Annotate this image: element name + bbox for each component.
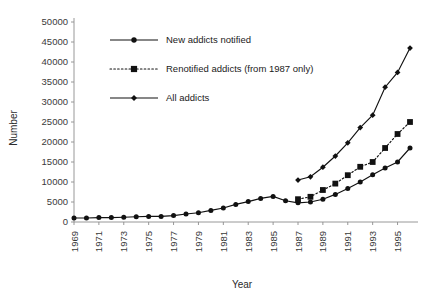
square-marker — [308, 194, 314, 200]
circle-marker — [96, 215, 101, 220]
x-tick-label: 1993 — [367, 231, 378, 252]
chart-axes — [74, 18, 418, 222]
diamond-marker — [407, 45, 413, 51]
x-tick-label: 1981 — [218, 231, 229, 252]
x-tick-label: 1985 — [268, 231, 279, 252]
y-tick-label: 0 — [63, 216, 68, 227]
square-marker — [295, 196, 301, 202]
circle-marker — [246, 199, 251, 204]
x-tick-label: 1975 — [143, 231, 154, 252]
y-axis-tick-labels: 0500010000150002000025000300003500040000… — [42, 16, 68, 227]
legend-label: Renotified addicts (from 1987 only) — [166, 63, 313, 74]
circle-marker — [131, 37, 136, 42]
y-tick-label: 40000 — [42, 56, 68, 67]
series-path — [298, 122, 410, 199]
axis-tick-marks — [71, 22, 398, 225]
circle-marker — [159, 214, 164, 219]
square-marker — [395, 131, 401, 137]
x-tick-label: 1977 — [168, 231, 179, 252]
chart-legend: New addicts notifiedRenotified addicts (… — [110, 34, 313, 103]
legend-label: All addicts — [166, 92, 210, 103]
y-tick-label: 50000 — [42, 16, 68, 27]
circle-marker — [233, 202, 238, 207]
diamond-marker — [295, 177, 301, 183]
x-tick-label: 1979 — [193, 231, 204, 252]
series-path — [298, 48, 410, 180]
chart-container: 0500010000150002000025000300003500040000… — [0, 0, 428, 295]
circle-marker — [271, 194, 276, 199]
x-axis-tick-labels: 1969197119731975197719791981198319851987… — [69, 231, 404, 252]
circle-marker — [84, 216, 89, 221]
square-marker — [370, 159, 376, 165]
circle-marker — [320, 197, 325, 202]
circle-marker — [283, 198, 288, 203]
x-tick-label: 1971 — [93, 231, 104, 252]
y-tick-label: 5000 — [47, 196, 68, 207]
square-marker — [131, 66, 137, 72]
line-chart: 0500010000150002000025000300003500040000… — [0, 0, 428, 295]
square-marker — [332, 181, 338, 187]
y-tick-label: 25000 — [42, 116, 68, 127]
circle-marker — [383, 166, 388, 171]
x-tick-label: 1983 — [243, 231, 254, 252]
square-marker — [382, 145, 388, 151]
square-marker — [345, 172, 351, 178]
circle-marker — [358, 180, 363, 185]
circle-marker — [72, 216, 77, 221]
x-tick-label: 1995 — [392, 231, 403, 252]
series-2 — [295, 119, 413, 202]
square-marker — [357, 164, 363, 170]
circle-marker — [308, 200, 313, 205]
circle-marker — [258, 196, 263, 201]
series-1 — [72, 146, 413, 221]
y-axis-title: Number — [8, 110, 19, 146]
x-tick-label: 1973 — [118, 231, 129, 252]
circle-marker — [333, 192, 338, 197]
legend-label: New addicts notified — [166, 34, 251, 45]
y-tick-label: 35000 — [42, 76, 68, 87]
circle-marker — [109, 215, 114, 220]
circle-marker — [184, 212, 189, 217]
y-tick-label: 15000 — [42, 156, 68, 167]
circle-marker — [121, 215, 126, 220]
x-tick-label: 1991 — [342, 231, 353, 252]
y-tick-label: 10000 — [42, 176, 68, 187]
circle-marker — [345, 186, 350, 191]
y-tick-label: 20000 — [42, 136, 68, 147]
square-marker — [320, 187, 326, 193]
legend-item-2[interactable]: Renotified addicts (from 1987 only) — [110, 63, 313, 74]
circle-marker — [208, 208, 213, 213]
diamond-marker — [131, 95, 137, 101]
circle-marker — [370, 172, 375, 177]
x-tick-label: 1989 — [317, 231, 328, 252]
square-marker — [407, 119, 413, 125]
circle-marker — [196, 210, 201, 215]
x-tick-label: 1969 — [69, 231, 80, 252]
x-tick-label: 1987 — [293, 231, 304, 252]
legend-item-1[interactable]: New addicts notified — [110, 34, 251, 45]
circle-marker — [408, 146, 413, 151]
circle-marker — [134, 214, 139, 219]
circle-marker — [395, 160, 400, 165]
x-axis-title: Year — [232, 279, 253, 290]
y-tick-label: 30000 — [42, 96, 68, 107]
circle-marker — [146, 214, 151, 219]
circle-marker — [171, 213, 176, 218]
legend-item-3[interactable]: All addicts — [110, 92, 210, 103]
y-tick-label: 45000 — [42, 36, 68, 47]
circle-marker — [221, 206, 226, 211]
